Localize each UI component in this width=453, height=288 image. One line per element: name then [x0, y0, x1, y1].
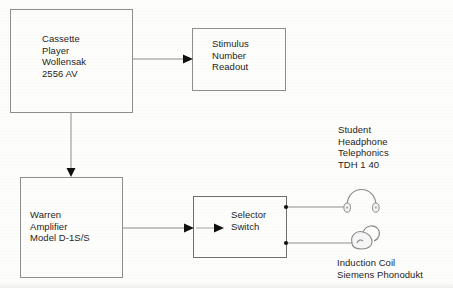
connector-cassette-to-amplifier: [67, 112, 76, 177]
arrowhead-icon: [67, 168, 76, 177]
connector-cassette-to-readout: [132, 55, 193, 64]
caption-induction-coil: Induction Coil Siemens Phonodukt: [337, 257, 423, 280]
node-label-warren-amplifier: Warren Amplifier Model D-1S/S: [30, 209, 90, 244]
induction-coil-icon: [352, 226, 380, 249]
arrowhead-icon: [214, 224, 224, 233]
node-label-cassette-player: Cassette Player Wollensak 2556 AV: [42, 33, 86, 79]
terminal-dot-headphone[interactable]: [284, 205, 288, 209]
arrowhead-icon: [183, 55, 193, 64]
headphone-icon: [344, 190, 379, 213]
caption-headphone: Student Headphone Telephonics TDH 1 40: [338, 124, 389, 170]
node-label-selector-switch: Selector Switch: [231, 209, 266, 232]
arrowhead-icon: [184, 224, 194, 233]
diagram-canvas: Cassette Player Wollensak 2556 AV Stimul…: [0, 0, 453, 288]
terminal-dot-induction[interactable]: [284, 241, 288, 245]
node-label-stimulus-readout: Stimulus Number Readout: [212, 38, 249, 73]
connector-amplifier-to-selector: [122, 224, 224, 233]
